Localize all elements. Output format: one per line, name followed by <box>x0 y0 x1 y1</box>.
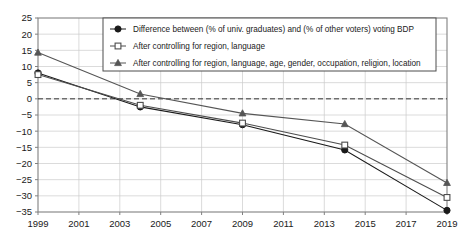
y-axis-tick-label: −5 <box>21 109 32 120</box>
x-axis-tick-label: 1999 <box>27 218 48 229</box>
x-axis-tick-label: 2009 <box>232 218 253 229</box>
data-point-marker <box>35 72 41 78</box>
y-axis-tick-label: −25 <box>16 174 32 185</box>
y-axis-tick-label: −15 <box>16 142 32 153</box>
y-axis-tick-label: 0 <box>27 93 32 104</box>
x-axis-tick-label: 2007 <box>191 218 212 229</box>
legend-label: Difference between (% of univ. graduates… <box>133 25 414 34</box>
y-axis-tick-label: 5 <box>27 77 32 88</box>
y-axis-tick-label: −35 <box>16 206 32 217</box>
y-axis-tick-label: −10 <box>16 126 32 137</box>
legend-label: After controlling for region, language <box>133 42 265 51</box>
x-axis-tick-label: 2019 <box>436 218 457 229</box>
x-axis-tick-label: 2015 <box>355 218 376 229</box>
legend-label: After controlling for region, language, … <box>133 59 421 68</box>
x-axis-tick-label: 2001 <box>68 218 89 229</box>
legend-marker <box>115 43 121 49</box>
y-axis-tick-label: −20 <box>16 158 32 169</box>
data-point-marker <box>444 195 450 201</box>
line-chart: 2520151050−5−10−15−20−25−30−351999200120… <box>0 0 465 246</box>
y-axis-tick-label: 25 <box>21 12 32 23</box>
y-axis-tick-label: 10 <box>21 61 32 72</box>
chart-container: 2520151050−5−10−15−20−25−30−351999200120… <box>0 0 465 246</box>
y-axis-tick-label: 20 <box>21 29 32 40</box>
data-point-marker <box>240 120 246 126</box>
x-axis-tick-label: 2013 <box>314 218 335 229</box>
x-axis-tick-label: 2003 <box>109 218 130 229</box>
data-point-marker <box>444 207 450 213</box>
y-axis-tick-label: 15 <box>21 45 32 56</box>
legend-marker <box>115 26 121 32</box>
data-point-marker <box>342 142 348 148</box>
x-axis-tick-label: 2011 <box>273 218 293 229</box>
data-point-marker <box>444 179 451 185</box>
y-axis-tick-label: −30 <box>16 190 32 201</box>
x-axis-tick-label: 2005 <box>150 218 171 229</box>
x-axis-tick-label: 2017 <box>396 218 417 229</box>
data-point-marker <box>137 102 143 108</box>
